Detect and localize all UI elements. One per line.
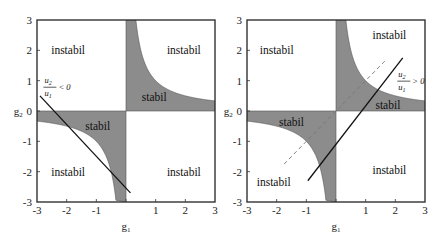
- unstable-region-label: instabil: [257, 176, 291, 188]
- x-tick-label: -2: [272, 204, 281, 216]
- stable-region-label: stabil: [142, 91, 167, 103]
- y-tick-label: -2: [233, 166, 242, 178]
- x-tick-label: 2: [393, 204, 399, 216]
- unstable-region-label: instabil: [167, 166, 201, 178]
- y-tick-label: 3: [237, 14, 243, 26]
- y-tick-label: -1: [233, 135, 242, 147]
- stable-region-q3: [37, 111, 126, 202]
- y-tick-label: 3: [27, 14, 33, 26]
- x-tick-label: 3: [422, 204, 428, 216]
- y-tick-label: 2: [27, 44, 33, 56]
- y-axis-label: g2 0: [224, 105, 243, 119]
- svg-text:u1: u1: [44, 88, 51, 99]
- x-tick-label: -3: [242, 204, 252, 216]
- y-axis-label: g2 0: [14, 105, 33, 119]
- stable-region-label: stabil: [85, 120, 110, 132]
- stability-chart-figure: -3-3-2-2-1-1112233g2 0g1instabilinstabil…: [0, 0, 444, 235]
- x-axis-label: g1: [122, 220, 132, 234]
- y-tick-label: -1: [23, 135, 32, 147]
- y-tick-label: 1: [237, 75, 243, 87]
- x-axis-label: g1: [332, 220, 342, 234]
- ratio-annotation: u2u1< 0: [43, 75, 71, 99]
- svg-text:< 0: < 0: [58, 82, 71, 92]
- x-tick-label: 1: [363, 204, 369, 216]
- chart-panel-1: -3-3-2-2-1-1112233g2 0g1instabilinstabil…: [14, 14, 219, 234]
- y-tick-label: 2: [237, 44, 243, 56]
- svg-text:> 0: > 0: [412, 76, 425, 86]
- unstable-region-label: instabil: [51, 166, 85, 178]
- stable-region-label: stabil: [375, 99, 400, 111]
- svg-text:u1: u1: [398, 82, 405, 93]
- unstable-region-label: instabil: [167, 44, 201, 56]
- x-tick-label: 1: [153, 204, 159, 216]
- stable-region-q1: [126, 20, 215, 111]
- x-tick-label: -1: [92, 204, 101, 216]
- x-tick-label: -2: [62, 204, 71, 216]
- y-tick-label: -2: [23, 166, 32, 178]
- unstable-region-label: instabil: [372, 29, 406, 41]
- y-tick-label: -3: [23, 196, 33, 208]
- y-tick-label: -3: [233, 196, 243, 208]
- x-tick-label: -3: [32, 204, 42, 216]
- chart-panel-2: -3-3-2-2-1-1112233g2 0g1instabilinstabil…: [224, 14, 429, 234]
- x-tick-label: 2: [183, 204, 189, 216]
- svg-text:u2: u2: [398, 69, 405, 80]
- y-tick-label: 1: [27, 75, 33, 87]
- x-tick-label: 3: [212, 204, 218, 216]
- ratio-annotation: u2u1> 0: [397, 69, 425, 93]
- x-tick-label: -1: [302, 204, 311, 216]
- unstable-region-label: instabil: [51, 44, 85, 56]
- unstable-region-label: instabil: [260, 44, 294, 56]
- stable-region-label: stabil: [279, 116, 304, 128]
- unstable-region-label: instabil: [372, 164, 406, 176]
- svg-text:u2: u2: [44, 75, 51, 86]
